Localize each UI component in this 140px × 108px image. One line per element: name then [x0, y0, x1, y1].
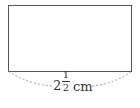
rectangle-diagram	[0, 0, 140, 108]
dimension-arc-right	[92, 72, 132, 87]
rectangle	[9, 6, 132, 72]
dimension-arc-left	[9, 72, 53, 87]
